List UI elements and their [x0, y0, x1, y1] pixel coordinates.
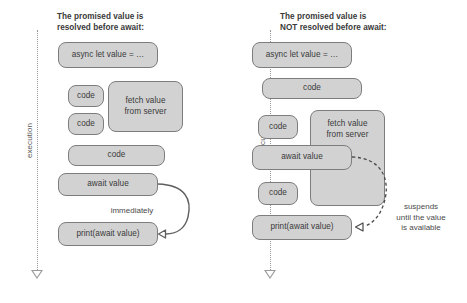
- suspends-arrow-icon: [233, 0, 467, 303]
- panel-resolved: The promised value is resolved before aw…: [0, 0, 233, 303]
- panel-not-resolved: The promised value is NOT resolved befor…: [233, 0, 466, 303]
- diagram-canvas: The promised value is resolved before aw…: [0, 0, 467, 303]
- immediately-arrow-icon: [0, 0, 233, 303]
